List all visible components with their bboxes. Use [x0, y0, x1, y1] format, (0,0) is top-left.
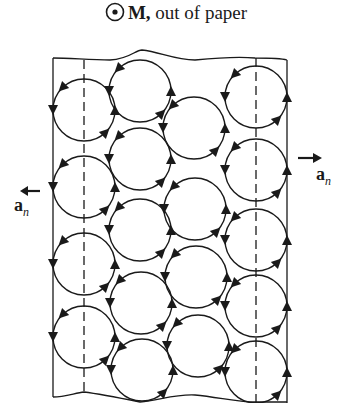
current-loops-diagram	[0, 0, 352, 403]
direction-arrow-icon	[48, 259, 58, 269]
direction-arrow-icon	[159, 204, 169, 214]
direction-arrow-icon	[55, 235, 69, 249]
direction-arrow-icon	[271, 387, 285, 401]
direction-arrow-icon	[166, 225, 176, 235]
direction-arrow-icon	[104, 86, 114, 96]
direction-arrow-icon	[209, 143, 223, 157]
direction-arrow-icon	[162, 341, 172, 351]
direction-arrow-icon	[48, 182, 58, 192]
direction-arrow-icon	[220, 235, 230, 245]
direction-arrow-icon	[271, 112, 285, 126]
direction-arrow-icon	[110, 332, 120, 342]
direction-arrow-icon	[106, 365, 116, 375]
direction-arrow-icon	[221, 204, 231, 214]
direction-arrow-icon	[271, 321, 285, 335]
direction-arrow-icon	[220, 123, 230, 133]
direction-arrow-icon	[110, 182, 120, 192]
direction-arrow-icon	[168, 365, 178, 375]
direction-arrow-icon	[220, 165, 230, 175]
direction-arrow-icon	[169, 317, 183, 331]
top-edge	[53, 50, 287, 60]
direction-arrow-icon	[99, 279, 113, 293]
left-arrow-icon	[20, 186, 40, 196]
direction-arrow-icon	[166, 86, 176, 96]
direction-arrow-icon	[113, 341, 127, 355]
current-loop	[158, 97, 230, 159]
direction-arrow-icon	[271, 185, 285, 199]
direction-arrow-icon	[220, 367, 230, 377]
direction-arrow-icon	[227, 68, 241, 82]
direction-arrow-icon	[112, 274, 126, 288]
direction-arrow-icon	[166, 154, 176, 164]
direction-arrow-icon	[99, 202, 113, 216]
direction-arrow-icon	[55, 308, 69, 322]
direction-arrow-icon	[227, 141, 241, 155]
direction-arrow-icon	[282, 92, 292, 102]
direction-arrow-icon	[111, 62, 125, 76]
bottom-edge	[53, 392, 287, 402]
direction-arrow-icon	[48, 105, 58, 115]
direction-arrow-icon	[282, 235, 292, 245]
direction-arrow-icon	[99, 352, 113, 366]
current-loop	[160, 246, 232, 308]
direction-arrow-icon	[105, 298, 115, 308]
direction-arrow-icon	[110, 259, 120, 269]
direction-arrow-icon	[282, 301, 292, 311]
direction-arrow-icon	[158, 123, 168, 133]
direction-arrow-icon	[111, 130, 125, 144]
right-arrow-icon	[298, 153, 322, 163]
direction-arrow-icon	[220, 301, 230, 311]
direction-arrow-icon	[167, 248, 181, 262]
direction-arrow-icon	[55, 158, 69, 172]
current-loop	[105, 272, 177, 334]
direction-arrow-icon	[99, 125, 113, 139]
direction-arrow-icon	[166, 180, 180, 194]
direction-arrow-icon	[220, 92, 230, 102]
direction-arrow-icon	[156, 318, 170, 332]
direction-arrow-icon	[155, 245, 169, 259]
direction-arrow-icon	[222, 272, 232, 282]
direction-arrow-icon	[104, 225, 114, 235]
direction-arrow-icon	[271, 255, 285, 269]
direction-arrow-icon	[155, 174, 169, 188]
direction-arrow-icon	[111, 201, 125, 215]
direction-arrow-icon	[48, 332, 58, 342]
direction-arrow-icon	[282, 367, 292, 377]
direction-arrow-icon	[104, 154, 114, 164]
direction-arrow-icon	[282, 165, 292, 175]
direction-arrow-icon	[55, 81, 69, 95]
